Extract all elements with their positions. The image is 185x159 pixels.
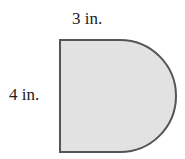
top-dimension-label: 3 in. [72, 10, 102, 27]
rectangle-semicircle-figure [60, 40, 176, 152]
left-dimension-label: 4 in. [9, 86, 39, 103]
